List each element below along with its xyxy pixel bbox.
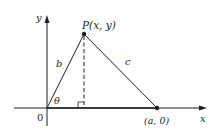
point-a-label: (a, 0) <box>144 115 169 126</box>
side-c-label: c <box>125 56 131 67</box>
x-axis-label: x <box>200 113 206 124</box>
side-c <box>84 34 157 108</box>
triangle-diagram: y x 0 P(x, y) (a, 0) b c θ <box>0 0 216 135</box>
origin-label: 0 <box>37 112 43 123</box>
x-axis-arrow-icon <box>199 106 207 111</box>
side-b-label: b <box>56 58 62 69</box>
y-axis-label: y <box>35 12 42 23</box>
point-p <box>82 32 86 36</box>
y-axis-arrow-icon <box>45 15 50 23</box>
side-b <box>47 34 84 108</box>
point-p-coords: (x, y) <box>89 19 116 31</box>
point-p-label: P(x, y) <box>81 19 116 31</box>
angle-theta-label: θ <box>54 95 60 106</box>
right-angle-mark <box>78 102 84 108</box>
point-a <box>155 106 159 110</box>
